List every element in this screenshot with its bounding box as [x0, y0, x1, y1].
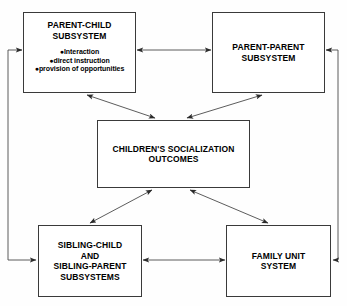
node-family-unit-title: FAMILY UNIT SYSTEM [252, 251, 306, 272]
node-sibling-subsystems[interactable]: SIBLING-CHILD AND SIBLING-PARENT SUBSYST… [38, 225, 142, 297]
bullet-item: ●Interaction [35, 48, 125, 57]
edge-parent-parent-to-center [187, 95, 262, 118]
node-parent-child-bullets: ●Interaction ●direct instruction ●provis… [35, 48, 125, 74]
edge-center-to-family-unit [190, 190, 268, 223]
node-parent-child-title: PARENT-CHILD SUBSYSTEM [48, 20, 112, 41]
bullet-label: Interaction [64, 48, 99, 55]
bullet-label: direct instruction [53, 57, 109, 64]
node-parent-child-subsystem[interactable]: PARENT-CHILD SUBSYSTEM ●Interaction ●dir… [23, 12, 136, 93]
diagram-canvas: PARENT-CHILD SUBSYSTEM ●Interaction ●dir… [0, 0, 347, 306]
bullet-label: provision of opportunities [39, 65, 124, 72]
node-sibling-title: SIBLING-CHILD AND SIBLING-PARENT SUBSYST… [53, 240, 126, 282]
edge-center-to-sibling [90, 190, 152, 223]
bullet-item: ●provision of opportunities [35, 65, 125, 74]
bullet-item: ●direct instruction [35, 57, 125, 66]
node-center-title: CHILDREN'S SOCIALIZATION OUTCOMES [113, 144, 235, 165]
node-parent-parent-subsystem[interactable]: PARENT-PARENT SUBSYSTEM [212, 12, 325, 93]
node-childrens-socialization-outcomes[interactable]: CHILDREN'S SOCIALIZATION OUTCOMES [97, 120, 250, 188]
node-parent-parent-title: PARENT-PARENT SUBSYSTEM [232, 42, 304, 63]
edge-parent-child-to-center [87, 95, 155, 118]
node-family-unit-system[interactable]: FAMILY UNIT SYSTEM [226, 225, 331, 297]
